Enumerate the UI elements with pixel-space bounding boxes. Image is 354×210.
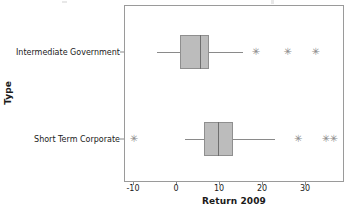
x-tick-label: 30: [300, 184, 310, 193]
x-axis-title: Return 2009: [124, 196, 344, 206]
y-tick-label: Short Term Corporate: [34, 135, 120, 144]
y-tick-label: Intermediate Government: [16, 48, 120, 57]
whisker-low-line: [185, 139, 204, 140]
asterisk-marker: ✳: [312, 47, 320, 57]
boxplot-median-line: [218, 122, 219, 156]
whisker-low-line: [157, 52, 180, 53]
y-axis-title: Type: [3, 68, 13, 118]
plot-area: [124, 5, 344, 182]
whisker-high-line: [233, 139, 275, 140]
asterisk-marker: ✳: [330, 134, 338, 144]
scan-artifact: [62, 1, 67, 3]
x-tick-label: 20: [257, 184, 267, 193]
y-tick-mark: [120, 139, 124, 140]
scan-artifact: [271, 0, 274, 4]
y-tick-mark: [120, 52, 124, 53]
asterisk-marker: ✳: [130, 134, 138, 144]
x-tick-label: 10: [214, 184, 224, 193]
asterisk-marker: ✳: [294, 134, 302, 144]
whisker-high-line: [209, 52, 243, 53]
boxplot-box: [180, 35, 209, 69]
x-tick-label: -10: [126, 184, 139, 193]
boxplot-median-line: [200, 35, 201, 69]
x-tick-label: 0: [173, 184, 178, 193]
boxplot-chart: -100102030 Intermediate GovernmentShort …: [0, 0, 354, 210]
asterisk-marker: ✳: [252, 47, 260, 57]
asterisk-marker: ✳: [284, 47, 292, 57]
